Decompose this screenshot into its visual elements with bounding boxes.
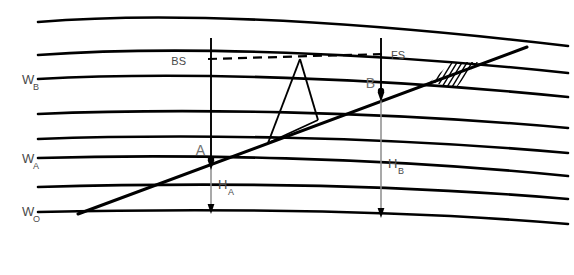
equipotential-surface-group <box>38 18 568 224</box>
height-a-dimension <box>208 160 215 214</box>
label-height-a: H <box>218 177 227 192</box>
levelling-instrument-tripod <box>268 59 318 143</box>
equipotential-surface-wo <box>38 210 568 224</box>
equipotential-surface-top-1 <box>38 18 568 46</box>
label-point-b: B <box>366 75 375 91</box>
label-surface-wb-subscript: B <box>33 82 39 92</box>
label-point-a: A <box>196 142 206 158</box>
ground-surface-line <box>78 47 527 214</box>
levelling-diagram-canvas: W B W A W O BS FS A B H A H B <box>0 0 574 275</box>
label-height-a-subscript: A <box>228 187 234 197</box>
label-backsight: BS <box>171 55 186 67</box>
height-b-dimension <box>378 92 385 218</box>
equipotential-surface-low-1 <box>38 185 568 199</box>
equipotential-surface-mid-1 <box>38 111 568 128</box>
label-height-b: H <box>388 156 397 171</box>
equipotential-surface-wb <box>38 76 568 97</box>
label-surface-wa-subscript: A <box>33 161 39 171</box>
label-height-b-subscript: B <box>398 166 404 176</box>
label-surface-wo-subscript: O <box>33 214 40 224</box>
equipotential-surface-mid-2 <box>38 137 568 153</box>
levelling-diagram-root: W B W A W O BS FS A B H A H B <box>0 0 574 275</box>
label-foresight: FS <box>391 49 405 61</box>
equipotential-surface-wa <box>38 156 568 176</box>
